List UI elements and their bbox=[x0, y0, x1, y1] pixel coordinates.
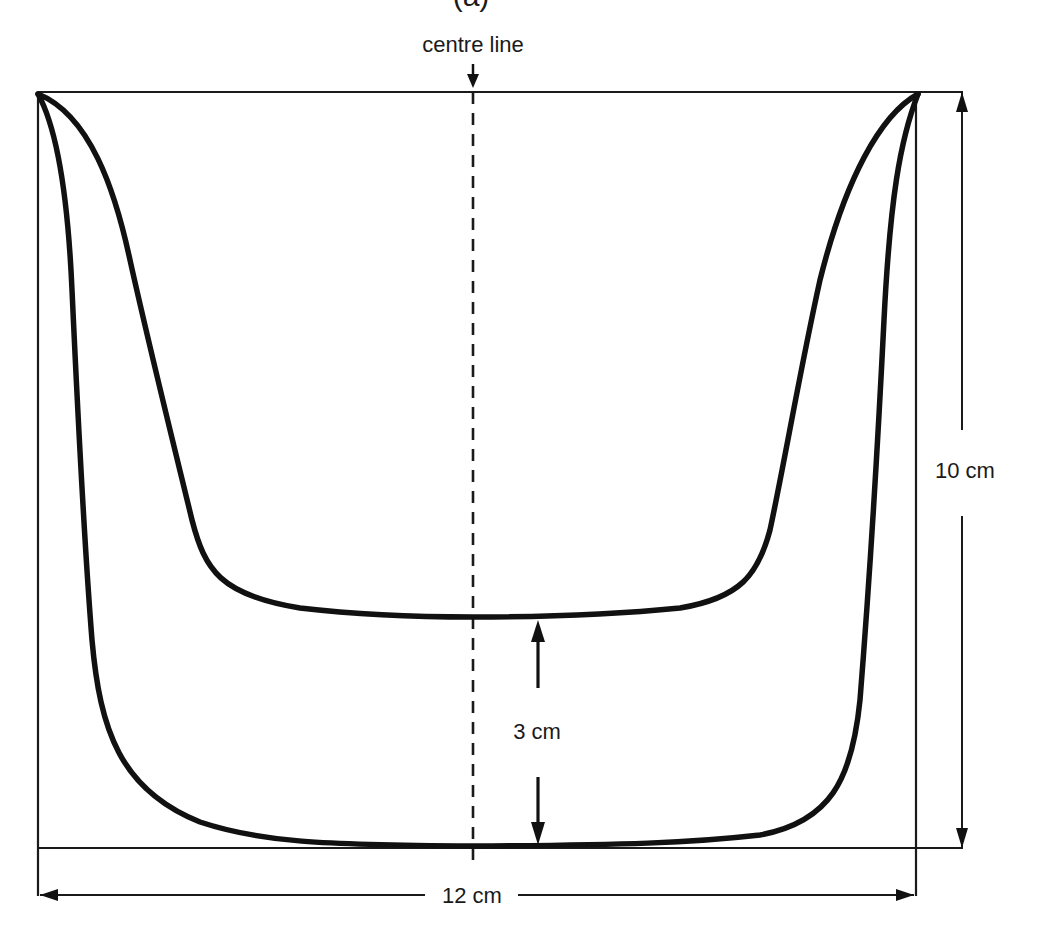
inner-curve bbox=[38, 94, 918, 617]
cross-section-diagram: (a) centre line 10 cm 12 cm bbox=[0, 0, 1039, 940]
arrow-up-icon bbox=[956, 92, 968, 112]
gap-label: 3 cm bbox=[513, 719, 561, 744]
centre-line-pointer-arrow-icon bbox=[467, 64, 479, 88]
width-dimension: 12 cm bbox=[40, 883, 914, 908]
arrow-right-icon bbox=[896, 889, 914, 901]
height-label: 10 cm bbox=[935, 458, 995, 483]
arrow-up-icon bbox=[531, 620, 545, 642]
arrow-left-icon bbox=[40, 889, 58, 901]
partial-figure-label: (a) bbox=[453, 0, 490, 12]
height-dimension: 10 cm bbox=[935, 92, 995, 848]
bounding-box bbox=[38, 92, 963, 896]
gap-dimension: 3 cm bbox=[513, 620, 561, 845]
outer-curve bbox=[38, 94, 918, 846]
width-label: 12 cm bbox=[442, 883, 502, 908]
centre-line-label: centre line bbox=[422, 32, 524, 57]
arrow-down-icon bbox=[956, 828, 968, 848]
arrow-down-icon bbox=[531, 822, 545, 845]
